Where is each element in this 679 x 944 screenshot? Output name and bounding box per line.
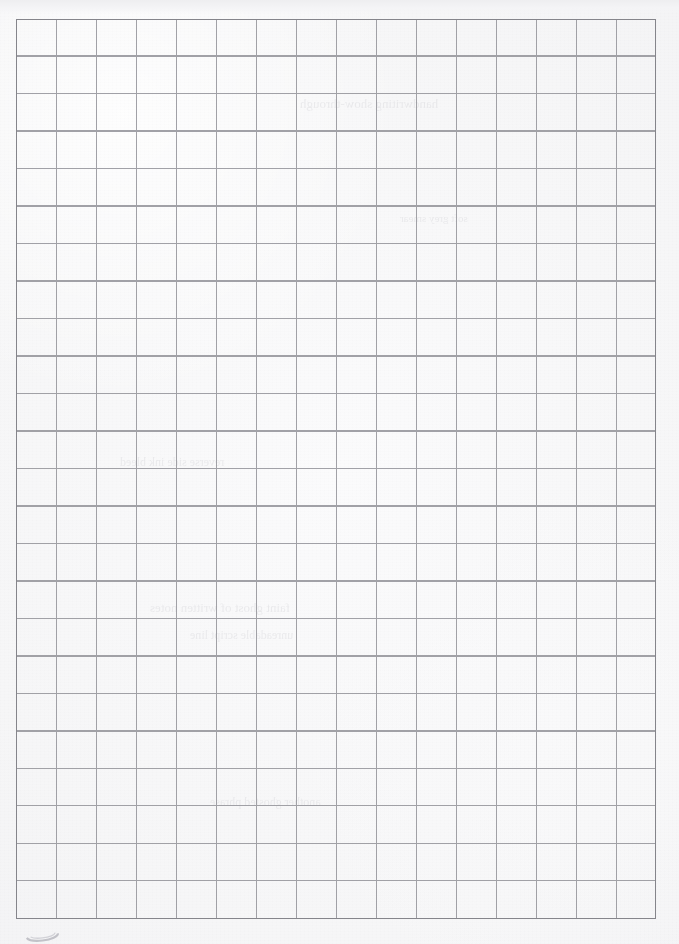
scanner-edge-band xyxy=(0,0,679,14)
grid-area xyxy=(16,19,656,919)
scanned-page: handwriting show-throughreverse side ink… xyxy=(0,0,679,944)
stray-ink-mark xyxy=(20,924,64,942)
grid-lines xyxy=(16,19,656,919)
